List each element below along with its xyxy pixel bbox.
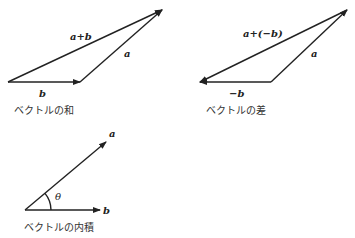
neg-b-label: −b <box>229 88 244 99</box>
difference-caption: ベクトルの差 <box>206 104 266 116</box>
vector-a-arrow <box>271 10 347 82</box>
a-label: a <box>311 48 317 59</box>
inner-product-diagram: a θ b ベクトルの内積 <box>24 128 115 233</box>
vector-diagrams: a+b a b ベクトルの和 a+(−b) a −b ベクトルの差 a θ b … <box>0 0 355 238</box>
sum-caption: ベクトルの和 <box>14 105 74 116</box>
a-label: a <box>109 128 115 139</box>
difference-label: a+(−b) <box>243 28 283 39</box>
sum-label: a+b <box>70 31 92 42</box>
inner-product-caption: ベクトルの内積 <box>24 221 94 233</box>
vector-a-arrow <box>80 10 162 82</box>
a-label: a <box>124 48 130 59</box>
vector-difference-diagram: a+(−b) a −b ベクトルの差 <box>200 10 347 116</box>
theta-label: θ <box>55 191 61 202</box>
vector-sum-arrow <box>8 10 162 82</box>
b-label: b <box>103 205 110 216</box>
vector-difference-arrow <box>200 10 347 82</box>
angle-arc <box>45 193 51 210</box>
vector-a-arrow <box>25 142 106 210</box>
b-label: b <box>39 88 46 99</box>
vector-sum-diagram: a+b a b ベクトルの和 <box>8 10 162 116</box>
